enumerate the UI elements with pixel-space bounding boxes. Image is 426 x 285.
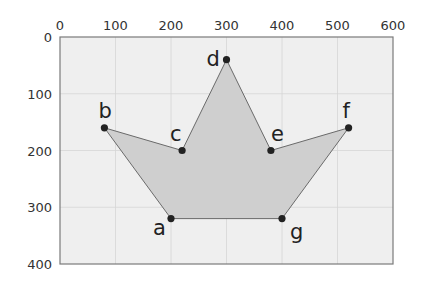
- vertex-dot: [167, 215, 174, 222]
- vertex-label: e: [271, 122, 284, 146]
- vertex-dot: [179, 147, 186, 154]
- y-tick-label: 100: [27, 87, 52, 102]
- vertex-label: f: [343, 99, 351, 123]
- x-tick-label: 300: [214, 18, 239, 33]
- y-axis-ticks: 0100200300400: [27, 30, 52, 272]
- vertex-label: a: [153, 216, 166, 240]
- vertex-dot: [278, 215, 285, 222]
- x-tick-label: 100: [103, 18, 128, 33]
- x-axis-ticks: 0100200300400500600: [56, 18, 406, 33]
- vertex-dot: [223, 56, 230, 63]
- y-tick-label: 300: [27, 200, 52, 215]
- vertex-label: c: [170, 122, 182, 146]
- y-tick-label: 0: [44, 30, 52, 45]
- x-tick-label: 0: [56, 18, 64, 33]
- x-tick-label: 500: [325, 18, 350, 33]
- y-tick-label: 200: [27, 144, 52, 159]
- polygon-diagram: 0100200300400500600 0100200300400 abcdef…: [0, 0, 426, 285]
- vertex-label: g: [290, 220, 303, 244]
- x-tick-label: 600: [381, 18, 406, 33]
- y-tick-label: 400: [27, 257, 52, 272]
- x-tick-label: 400: [270, 18, 295, 33]
- vertex-dot: [267, 147, 274, 154]
- vertex-dot: [101, 124, 108, 131]
- vertex-label: d: [207, 47, 220, 71]
- x-tick-label: 200: [159, 18, 184, 33]
- vertex-label: b: [98, 99, 111, 123]
- vertex-dot: [345, 124, 352, 131]
